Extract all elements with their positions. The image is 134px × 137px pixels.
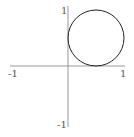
plot-canvas: -1 1 1 -1	[0, 0, 134, 137]
y-tick-neg1: -1	[57, 119, 67, 130]
circle-curve	[68, 10, 124, 66]
x-tick-1: 1	[120, 68, 126, 79]
y-tick-1: 1	[61, 5, 67, 16]
x-tick-neg1: -1	[8, 68, 18, 79]
